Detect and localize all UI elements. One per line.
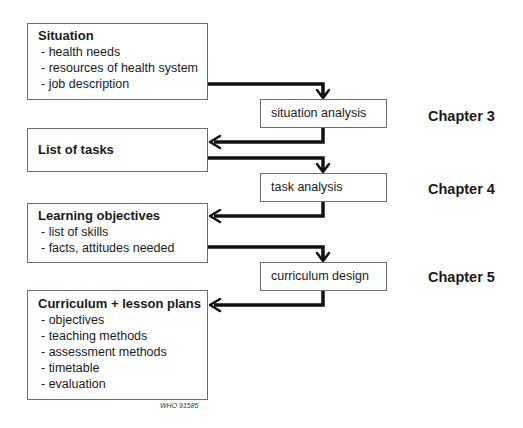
list-item: - teaching methods xyxy=(41,328,207,344)
list-of-tasks-title: List of tasks xyxy=(38,142,207,158)
arrow-tasks-to-task-analysis xyxy=(207,158,323,170)
list-item: - health needs xyxy=(41,44,207,60)
arrow-task-analysis-to-objectives xyxy=(214,201,323,216)
learning-objectives-title: Learning objectives xyxy=(38,208,207,224)
list-item: - assessment methods xyxy=(41,344,207,360)
list-item: - facts, attitudes needed xyxy=(41,240,207,256)
arrow-objectives-to-design xyxy=(207,247,323,259)
learning-objectives-box: Learning objectives - list of skills - f… xyxy=(27,203,208,263)
list-item: - list of skills xyxy=(41,224,207,240)
figure-code: WHO 91585 xyxy=(160,402,199,409)
curriculum-design-box: curriculum design xyxy=(260,262,387,291)
list-item: - resources of health system xyxy=(41,60,207,76)
situation-box: Situation - health needs - resources of … xyxy=(27,23,208,100)
situation-title: Situation xyxy=(38,28,207,44)
arrow-analysis-to-tasks xyxy=(214,127,323,142)
list-item: - objectives xyxy=(41,312,207,328)
situation-analysis-box: situation analysis xyxy=(260,99,387,128)
chapter-3-label: Chapter 3 xyxy=(428,108,495,124)
curriculum-plans-box: Curriculum + lesson plans - objectives -… xyxy=(27,290,208,400)
learning-objectives-list: - list of skills - facts, attitudes need… xyxy=(38,224,207,256)
task-analysis-box: task analysis xyxy=(260,173,387,202)
arrow-situation-to-analysis xyxy=(207,84,323,96)
list-item: - evaluation xyxy=(41,376,207,392)
list-item: - job description xyxy=(41,76,207,92)
curriculum-plans-title: Curriculum + lesson plans xyxy=(38,296,207,312)
list-item: - timetable xyxy=(41,360,207,376)
curriculum-plans-list: - objectives - teaching methods - assess… xyxy=(38,312,207,392)
list-of-tasks-box: List of tasks xyxy=(27,128,208,172)
arrow-design-to-plans xyxy=(214,290,323,305)
situation-list: - health needs - resources of health sys… xyxy=(38,44,207,92)
chapter-5-label: Chapter 5 xyxy=(428,269,495,285)
chapter-4-label: Chapter 4 xyxy=(428,181,495,197)
